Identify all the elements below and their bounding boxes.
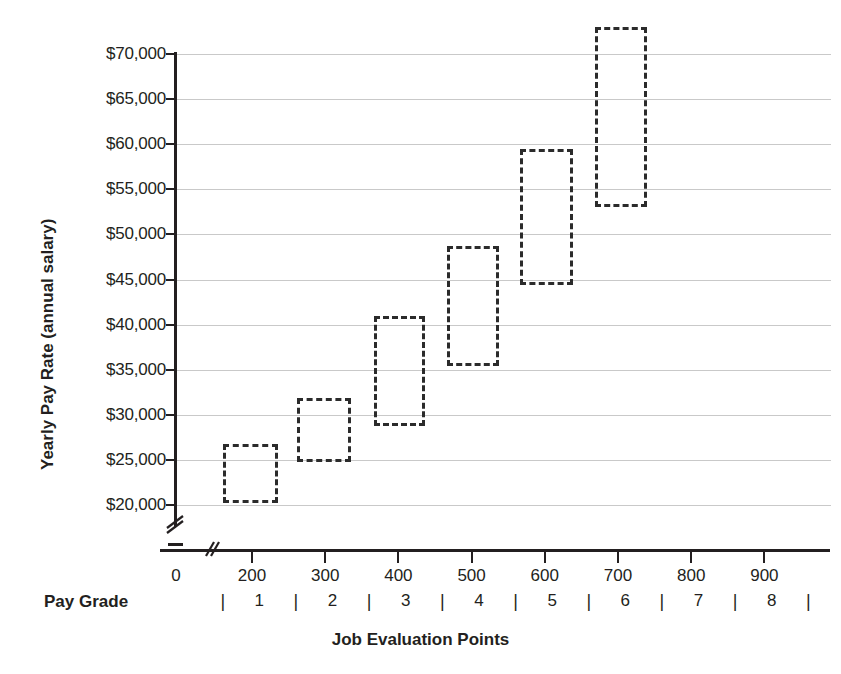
y-axis-tick-label: $40,000 [62, 315, 166, 335]
pay-grade-separator: | [294, 592, 299, 610]
x-axis-tick-label: 400 [384, 566, 412, 586]
y-axis-title: Yearly Pay Rate (annual salary) [38, 219, 58, 470]
pay-grade-separator: | [513, 592, 518, 610]
gridline [176, 325, 831, 326]
x-axis-break-icon [200, 538, 224, 562]
gridline [176, 415, 831, 416]
gridline [176, 144, 831, 145]
x-axis-tick-label: 200 [238, 566, 266, 586]
x-axis-tick [763, 552, 765, 563]
pay-grade-label-4: 4 [474, 592, 483, 609]
pay-structure-chart: Yearly Pay Rate (annual salary) $70,000$… [0, 0, 841, 674]
y-axis-tick-label: $60,000 [62, 134, 166, 154]
pay-grade-separator: | [733, 592, 738, 610]
y-axis-line [174, 52, 177, 527]
x-axis-tick [617, 552, 619, 563]
x-axis-tick [690, 552, 692, 563]
x-axis-origin-tick [168, 543, 183, 546]
gridline [176, 505, 831, 506]
y-axis-tick-label-wrap: $30,000 [62, 405, 166, 425]
y-axis-tick-label: $55,000 [62, 179, 166, 199]
y-axis-tick-label: $50,000 [62, 224, 166, 244]
pay-grade-range-box [595, 27, 648, 207]
pay-grade-range-box [297, 398, 350, 462]
gridline [176, 189, 831, 190]
y-axis-tick-label: $45,000 [62, 270, 166, 290]
gridline [176, 54, 831, 55]
x-axis-tick-label: 0 [171, 566, 180, 586]
pay-grade-separator: | [660, 592, 665, 610]
y-axis-tick-label-wrap: $20,000 [62, 495, 166, 515]
x-axis-tick-label: 900 [750, 566, 778, 586]
pay-grade-separator: | [440, 592, 445, 610]
gridline [176, 99, 831, 100]
y-axis-tick-label-wrap: $45,000 [62, 270, 166, 290]
pay-grade-range-box [520, 149, 573, 285]
y-axis-tick-label: $25,000 [62, 450, 166, 470]
y-axis-tick-label: $20,000 [62, 495, 166, 515]
y-axis-tick-label-wrap: $70,000 [62, 44, 166, 64]
x-axis-tick-label: 700 [604, 566, 632, 586]
x-axis-tick-label: 800 [677, 566, 705, 586]
x-axis-tick [544, 552, 546, 563]
pay-grade-label-1: 1 [255, 592, 264, 609]
y-axis-tick-label-wrap: $40,000 [62, 315, 166, 335]
gridline [176, 370, 831, 371]
x-axis-line [160, 549, 830, 552]
x-axis-title: Job Evaluation Points [0, 630, 841, 650]
y-axis-tick-label-wrap: $65,000 [62, 89, 166, 109]
pay-grade-label-6: 6 [621, 592, 630, 609]
pay-grade-separator: | [806, 592, 811, 610]
x-axis-tick [324, 552, 326, 563]
x-axis-tick-label: 600 [531, 566, 559, 586]
y-axis-tick-label-wrap: $25,000 [62, 450, 166, 470]
y-axis-tick-label: $65,000 [62, 89, 166, 109]
gridline [176, 280, 831, 281]
x-axis-tick [471, 552, 473, 563]
y-axis-tick-label-wrap: $50,000 [62, 224, 166, 244]
pay-grade-separator: | [220, 592, 225, 610]
y-axis-tick-label: $35,000 [62, 360, 166, 380]
pay-grade-label-7: 7 [694, 592, 703, 609]
y-axis-tick-label: $70,000 [62, 44, 166, 64]
pay-grade-separator: | [367, 592, 372, 610]
x-axis-tick-label: 500 [457, 566, 485, 586]
y-axis-tick-label: $30,000 [62, 405, 166, 425]
pay-grade-label-5: 5 [547, 592, 556, 609]
pay-grade-range-box [223, 444, 278, 504]
y-axis-tick-label-wrap: $35,000 [62, 360, 166, 380]
gridline [176, 234, 831, 235]
x-axis-tick-label: 300 [311, 566, 339, 586]
x-axis-tick [251, 552, 253, 563]
x-axis-tick [397, 552, 399, 563]
pay-grade-row-title: Pay Grade [44, 592, 128, 612]
pay-grade-label-2: 2 [328, 592, 337, 609]
pay-grade-range-box [447, 246, 498, 366]
y-axis-tick-label-wrap: $60,000 [62, 134, 166, 154]
y-axis-break-icon [163, 512, 189, 536]
y-axis-tick-label-wrap: $55,000 [62, 179, 166, 199]
pay-grade-separator: | [586, 592, 591, 610]
pay-grade-label-8: 8 [767, 592, 776, 609]
pay-grade-range-box [374, 316, 426, 426]
pay-grade-label-3: 3 [401, 592, 410, 609]
